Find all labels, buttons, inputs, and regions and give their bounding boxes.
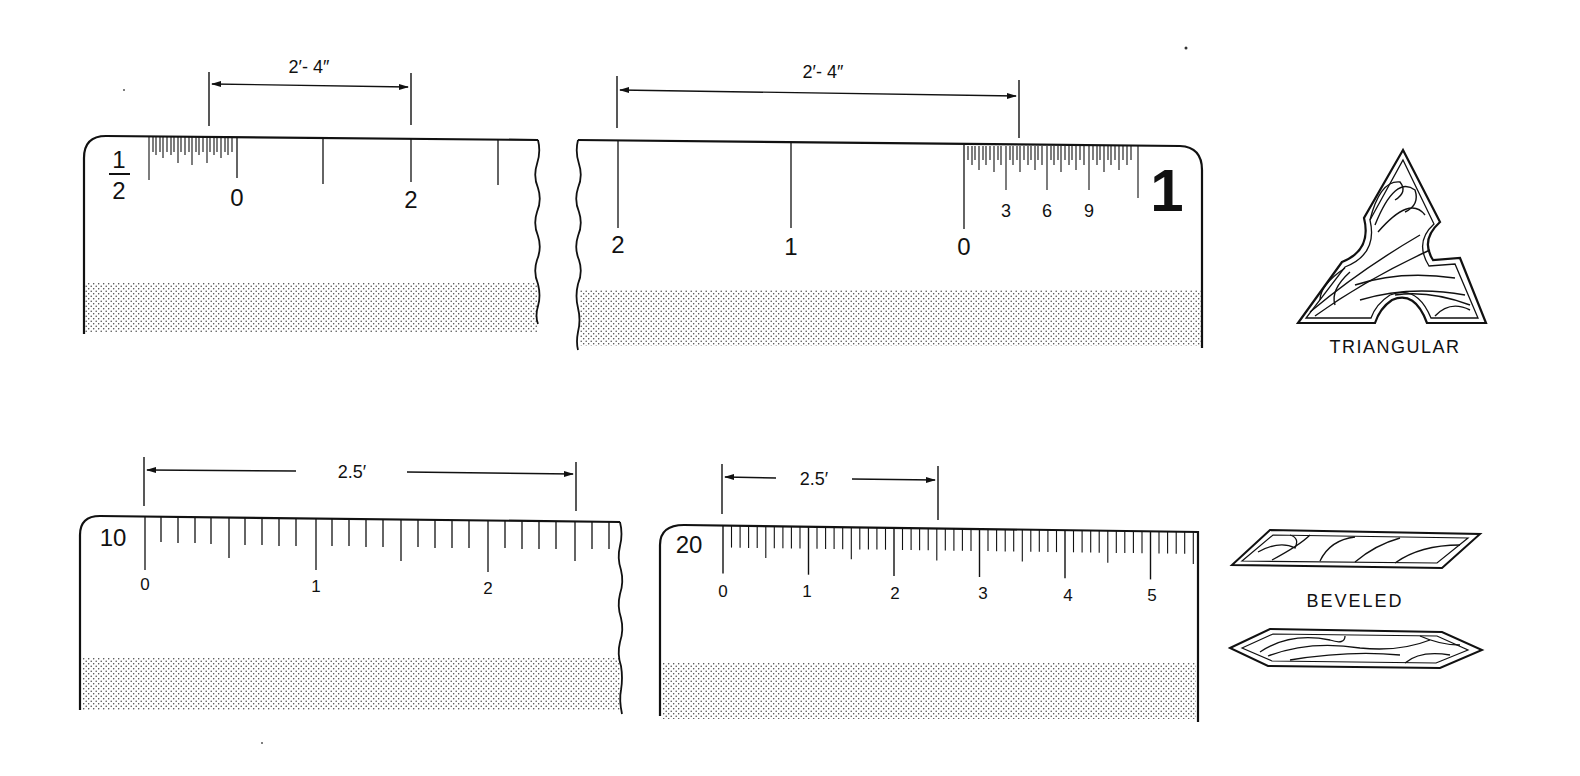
- scales-diagram: 1 2 0 2 2′- 4″: [0, 0, 1580, 776]
- tick-label: 2: [483, 579, 492, 598]
- engineer-scale-20: 20 0 1 2 3 4 5 2.5′: [660, 464, 1198, 722]
- tick-label: 2: [404, 186, 417, 213]
- tick-label: 2: [611, 231, 624, 258]
- tick-label: 0: [140, 575, 149, 594]
- stipple-band: [580, 290, 1202, 346]
- speck: [123, 89, 125, 91]
- beveled-cross-section-icon: BEVELED: [1230, 530, 1482, 668]
- dimension-line: [617, 76, 1019, 138]
- dimension-line: [209, 72, 411, 126]
- triangular-label: TRIANGULAR: [1329, 337, 1460, 357]
- scale-label: 10: [100, 524, 127, 551]
- tick-label: 0: [718, 582, 727, 601]
- tick-label: 5: [1147, 586, 1156, 605]
- tick-label: 1: [802, 582, 811, 601]
- scale-label-denominator: 2: [112, 177, 125, 204]
- tick-label: 1: [311, 577, 320, 596]
- dimension-label: 2.5′: [800, 469, 829, 489]
- dimension-label: 2.5′: [338, 462, 367, 482]
- stipple-band: [82, 658, 620, 710]
- stipple-band: [85, 283, 538, 333]
- ticks: [723, 526, 1193, 580]
- fine-ticks: [149, 137, 232, 180]
- dimension-label: 2′- 4″: [803, 62, 844, 82]
- scale-label: 1: [1150, 157, 1183, 224]
- half-inch-scale: 1 2 0 2 2′- 4″: [84, 57, 540, 334]
- tick-label: 3: [978, 584, 987, 603]
- dimension-line: [722, 464, 938, 520]
- ticks: [145, 517, 609, 572]
- dimension-label: 2′- 4″: [289, 57, 330, 77]
- inch-label: 3: [1001, 201, 1011, 221]
- tick-label: 4: [1063, 586, 1072, 605]
- stipple-band: [662, 663, 1196, 719]
- major-ticks: [618, 141, 964, 229]
- tick-label: 0: [957, 233, 970, 260]
- tick-label: 0: [230, 184, 243, 211]
- break-line: [576, 140, 581, 350]
- inch-label: 9: [1084, 201, 1094, 221]
- fine-ticks: [968, 146, 1138, 198]
- engineer-scale-10: 10 0 1 2 2.5′: [80, 457, 622, 714]
- tick-label: 1: [784, 233, 797, 260]
- scale-label-numerator: 1: [112, 146, 125, 173]
- beveled-label: BEVELED: [1306, 591, 1403, 611]
- tick-label: 2: [890, 584, 899, 603]
- one-inch-scale: 2 1 0 3 6 9 1 2′- 4″: [576, 62, 1202, 350]
- speck: [261, 742, 263, 744]
- inch-label: 6: [1042, 201, 1052, 221]
- major-ticks: [237, 137, 498, 185]
- triangular-cross-section-icon: TRIANGULAR: [1298, 150, 1486, 357]
- scale-label: 20: [676, 531, 703, 558]
- speck: [1185, 47, 1188, 50]
